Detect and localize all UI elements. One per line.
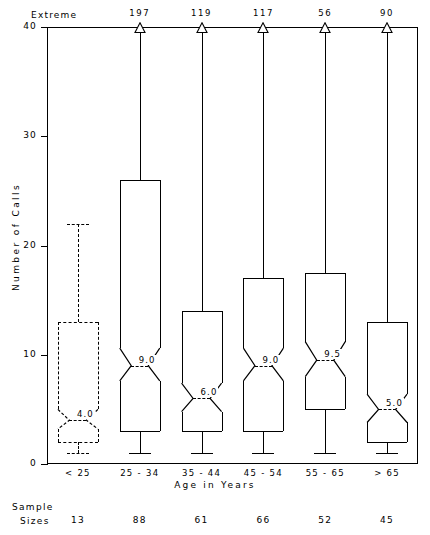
y-axis-tick <box>41 464 48 465</box>
sample-size-value: 88 <box>105 515 175 525</box>
box-plot-group: 5.0 <box>47 27 418 464</box>
sample-size-value: 52 <box>290 515 360 525</box>
plot-area: 4.09.06.09.09.55.0 <box>47 27 418 464</box>
x-axis-title: Age in Years <box>0 480 430 490</box>
y-axis-tick-label: 30 <box>3 130 37 140</box>
x-axis-tick-label: < 25 <box>43 468 113 478</box>
extreme-value-label: 119 <box>177 8 227 18</box>
y-axis-tick-label: 40 <box>3 21 37 31</box>
y-axis-tick-label: 10 <box>3 349 37 359</box>
x-axis-tick-label: > 65 <box>352 468 422 478</box>
extreme-triangle-marker <box>134 22 146 34</box>
notch-edges <box>47 27 418 464</box>
y-axis-tick-label: 0 <box>3 458 37 468</box>
extreme-header-label: Extreme <box>31 10 77 20</box>
x-axis-tick-label: 25 - 34 <box>105 468 175 478</box>
x-axis-tick-label: 45 - 54 <box>228 468 298 478</box>
extreme-triangle-marker <box>381 22 393 34</box>
x-axis-tick-label: 55 - 65 <box>290 468 360 478</box>
sample-sizes-caption-line1: Sample <box>12 502 54 512</box>
x-axis-tick-label: 35 - 44 <box>167 468 237 478</box>
extreme-triangle-marker <box>196 22 208 34</box>
sample-size-value: 13 <box>43 515 113 525</box>
sample-size-value: 61 <box>167 515 237 525</box>
y-axis-tick-label: 20 <box>3 240 37 250</box>
extreme-triangle-marker <box>319 22 331 34</box>
extreme-value-label: 117 <box>238 8 288 18</box>
sample-sizes-caption-line2: Sizes <box>20 516 50 526</box>
median-line <box>379 409 396 410</box>
sample-size-value: 45 <box>352 515 422 525</box>
boxplot-figure: Extreme Number of Calls 010203040 4.09.0… <box>0 0 430 535</box>
y-axis-title: Number of Calls <box>11 177 21 297</box>
sample-size-value: 66 <box>228 515 298 525</box>
extreme-value-label: 56 <box>300 8 350 18</box>
notch-left <box>367 394 379 422</box>
median-value-label: 5.0 <box>385 398 404 408</box>
extreme-value-label: 197 <box>115 8 165 18</box>
extreme-value-label: 90 <box>362 8 412 18</box>
extreme-triangle-marker <box>257 22 269 34</box>
